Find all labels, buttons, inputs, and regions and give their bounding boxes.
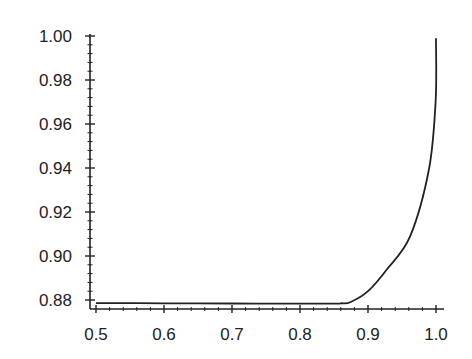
y-axis	[85, 34, 95, 309]
x-tick-label: 1.0	[424, 325, 448, 344]
y-tick-label: 1.00	[39, 27, 72, 46]
chart: 0.880.900.920.940.960.981.00 0.50.60.70.…	[0, 0, 472, 359]
x-tick-labels: 0.50.60.70.80.91.0	[84, 325, 448, 344]
x-tick-label: 0.6	[152, 325, 176, 344]
y-tick-labels: 0.880.900.920.940.960.981.00	[39, 27, 72, 310]
x-tick-label: 0.8	[288, 325, 312, 344]
x-tick-label: 0.5	[84, 325, 108, 344]
y-tick-label: 0.88	[39, 291, 72, 310]
y-tick-label: 0.92	[39, 203, 72, 222]
x-axis	[90, 305, 444, 313]
y-tick-label: 0.96	[39, 115, 72, 134]
data-curve	[96, 38, 436, 304]
y-tick-label: 0.94	[39, 159, 72, 178]
x-tick-label: 0.9	[356, 325, 380, 344]
y-tick-label: 0.90	[39, 247, 72, 266]
x-tick-label: 0.7	[220, 325, 244, 344]
y-tick-label: 0.98	[39, 71, 72, 90]
